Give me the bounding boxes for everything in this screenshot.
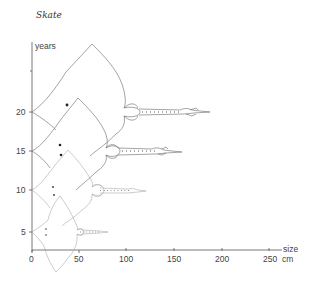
x-axis: 0 50 100 150 200 250 cm size [29,244,298,264]
y-tick-15: 15 [16,146,26,156]
skate-age-15 [32,98,182,190]
x-tick-50: 50 [74,254,84,264]
skate-age-5 [32,196,108,272]
x-tick-100: 100 [119,254,133,264]
y-axis-label: years [35,41,56,51]
x-tick-200: 200 [215,254,229,264]
skate-age-20 [32,44,210,156]
y-tick-10: 10 [16,185,26,195]
x-axis-label: size [283,244,298,254]
y-tick-20: 20 [16,107,26,117]
x-axis-unit: cm [282,254,293,264]
x-tick-150: 150 [167,254,181,264]
y-axis: years 20 15 10 5 [16,41,56,252]
x-tick-0: 0 [29,254,34,264]
skate-growth-diagram: years 20 15 10 5 0 50 100 150 200 250 cm… [0,0,316,284]
y-tick-5: 5 [21,227,26,237]
x-tick-250: 250 [263,254,277,264]
skate-age-10 [32,150,146,226]
